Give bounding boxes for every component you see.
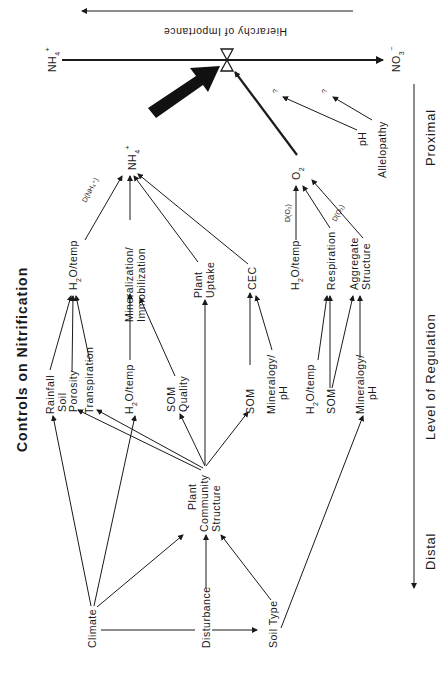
arrow-climate-to-rainfall xyxy=(53,416,91,606)
svg-text:H2O/temp: H2O/temp xyxy=(304,364,319,414)
svg-text:NH4+: NH4+ xyxy=(124,145,141,170)
svg-text:O2: O2 xyxy=(290,167,305,180)
climate-label: Climate xyxy=(86,609,98,648)
main-no3-label: NO3− xyxy=(388,46,405,72)
arrow-mineralogy-to-cec xyxy=(256,296,272,350)
svg-text:PlantCommunityStructure: PlantCommunityStructure xyxy=(186,474,222,532)
ph-proximal-label: pH xyxy=(356,132,368,146)
svg-text:Mineralization/Immobilization: Mineralization/Immobilization xyxy=(123,247,147,322)
svg-text:Mineralogy/pH: Mineralogy/pH xyxy=(265,354,289,414)
svg-text:Mineralogy/pH: Mineralogy/pH xyxy=(354,354,378,414)
arrow-h2o-to-respiration xyxy=(318,296,327,360)
mineralogy-ph-cec-label: Mineralogy/pH xyxy=(265,354,289,414)
arrow-community-to-som xyxy=(206,412,248,466)
rainfall-label: Rainfall xyxy=(44,375,56,414)
mineralogy-ph-agg-label: Mineralogy/pH xyxy=(354,354,378,414)
arrow-climate-to-community xyxy=(97,535,183,607)
arrow-porosity-to-h2o xyxy=(72,296,73,372)
svg-text:SoilPorosity: SoilPorosity xyxy=(56,370,79,412)
distal-label: Distal xyxy=(423,533,438,570)
o2-to-valve-arrow xyxy=(235,72,297,155)
d-o2-label-a: D(O₂) xyxy=(284,204,292,222)
svg-text:H2O/temp: H2O/temp xyxy=(67,240,82,290)
h2o-temp-nh4-label: H2O/temp xyxy=(67,240,82,290)
arrow-community-to-transpiration xyxy=(97,410,203,468)
page-title: Controls on Nitrification xyxy=(14,267,30,452)
som-cec-label: SOM xyxy=(244,389,256,414)
arrow-community-to-somq xyxy=(180,414,205,466)
soil-porosity-label: SoilPorosity xyxy=(56,370,79,412)
d-nh4-label: D(NH₄⁺) xyxy=(81,177,101,204)
h2o-temp-resp-label: H2O/temp xyxy=(304,364,319,414)
allelopathy-arrow xyxy=(333,97,372,120)
arrow-soiltype-to-community xyxy=(221,535,271,600)
hierarchy-label: Hierarchy of Importance xyxy=(163,26,287,38)
svg-text:AggregateStructure: AggregateStructure xyxy=(348,237,372,290)
question-mark-2: ? xyxy=(321,89,328,93)
proximal-label: Proximal xyxy=(423,109,438,166)
svg-text:H2O/temp: H2O/temp xyxy=(123,364,138,414)
transpiration-label: Transpiration xyxy=(83,347,95,414)
ph-arrow xyxy=(283,97,357,130)
h2o-temp-min-label: H2O/temp xyxy=(123,364,138,414)
nitrification-diagram: Hierarchy of Importance NH4+ NO3− ? ? pH… xyxy=(0,0,441,689)
svg-text:NO3−: NO3− xyxy=(388,46,405,72)
aggregate-structure-label: AggregateStructure xyxy=(348,237,372,290)
disturbance-label: Disturbance xyxy=(200,586,212,648)
svg-text:H2O/temp: H2O/temp xyxy=(289,240,304,290)
nh4-node: NH4+ xyxy=(124,145,141,170)
soil-type-label: Soil Type xyxy=(267,601,279,649)
allelopathy-label: Allelopathy xyxy=(376,121,388,178)
main-nh4-label: NH4+ xyxy=(44,47,61,72)
plant-uptake-label: PlantUptake xyxy=(192,262,216,298)
arrow-climate-to-h2o xyxy=(94,416,135,606)
h2o-temp-o2-label: H2O/temp xyxy=(289,240,304,290)
d-o2-label-b: D(O₂) xyxy=(331,203,346,223)
o2-node: O2 xyxy=(290,167,305,180)
arrow-respiration-to-o2 xyxy=(303,186,330,228)
arrow-som-to-aggregate xyxy=(332,296,353,388)
som-resp-label: SOM xyxy=(325,389,337,414)
question-mark-1: ? xyxy=(272,89,279,93)
svg-text:SOMQuality: SOMQuality xyxy=(165,376,189,412)
cec-label: CEC xyxy=(246,266,258,290)
plant-community-label: PlantCommunityStructure xyxy=(186,474,222,532)
arrow-soiltype-to-mineralogy xyxy=(281,416,363,628)
svg-text:PlantUptake: PlantUptake xyxy=(192,262,216,298)
arrow-cec-to-nh4 xyxy=(138,174,248,264)
big-nh4-arrow xyxy=(148,66,220,118)
arrow-somq-to-mineralization xyxy=(140,298,175,376)
svg-text:NH4+: NH4+ xyxy=(44,47,61,72)
level-of-regulation-label: Level of Regulation xyxy=(423,314,438,441)
mineralization-label: Mineralization/Immobilization xyxy=(123,247,147,322)
respiration-label: Respiration xyxy=(325,231,337,290)
som-quality-label: SOMQuality xyxy=(165,376,189,412)
arrow-rainfall-to-h2o xyxy=(50,296,71,370)
